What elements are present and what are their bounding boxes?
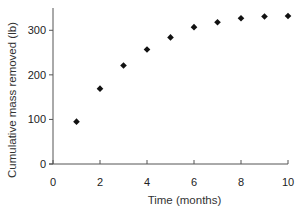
data-point <box>214 19 221 26</box>
x-tick-label: 6 <box>191 176 197 188</box>
scatter-chart: 0246810 0100200300 Time (months) Cumulat… <box>0 0 301 217</box>
x-axis-title: Time (months) <box>148 194 222 206</box>
y-axis-title: Cumulative mass removed (lb) <box>6 22 18 178</box>
axes <box>49 8 288 164</box>
y-tick-label: 300 <box>28 24 46 36</box>
data-point <box>261 13 268 20</box>
data-point <box>167 34 174 41</box>
x-tick-label: 2 <box>97 176 103 188</box>
data-point <box>144 46 151 53</box>
data-point <box>73 118 80 125</box>
y-ticks: 0100200300 <box>28 24 53 170</box>
y-tick-label: 100 <box>28 113 46 125</box>
data-point <box>120 62 127 69</box>
x-tick-label: 8 <box>238 176 244 188</box>
data-point <box>285 13 292 20</box>
data-point <box>97 85 104 92</box>
data-points <box>73 13 291 125</box>
data-point <box>191 24 198 31</box>
y-tick-label: 200 <box>28 69 46 81</box>
x-tick-label: 4 <box>144 176 150 188</box>
x-tick-label: 10 <box>282 176 294 188</box>
y-tick-label: 0 <box>40 158 46 170</box>
x-tick-label: 0 <box>50 176 56 188</box>
data-point <box>238 15 245 22</box>
